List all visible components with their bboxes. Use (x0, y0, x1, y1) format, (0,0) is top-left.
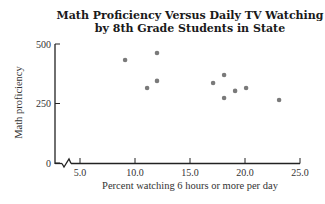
y-tick-label: 250 (36, 98, 51, 109)
data-point (244, 86, 249, 91)
data-point (145, 86, 150, 91)
scatter-plot: 02505005.010.015.020.025.0 (0, 0, 325, 204)
data-point (277, 98, 282, 103)
data-point (123, 58, 128, 63)
x-axis-label: Percent watching 6 hours or more per day (55, 180, 325, 191)
data-points (123, 51, 282, 102)
y-tick-label: 500 (36, 39, 51, 50)
x-tick-label: 5.0 (74, 167, 87, 178)
y-axis-label: Math proficiency (13, 58, 24, 148)
data-point (155, 79, 160, 84)
data-point (233, 89, 238, 94)
axes: 02505005.010.015.020.025.0 (36, 39, 309, 179)
y-tick-label: 0 (46, 158, 51, 169)
data-point (222, 96, 227, 101)
data-point (222, 73, 227, 78)
x-tick-label: 15.0 (181, 167, 199, 178)
x-tick-label: 20.0 (236, 167, 254, 178)
data-point (211, 81, 216, 86)
data-point (155, 51, 160, 56)
x-tick-label: 10.0 (126, 167, 144, 178)
x-tick-label: 25.0 (291, 167, 309, 178)
axis-break-icon (62, 159, 71, 167)
